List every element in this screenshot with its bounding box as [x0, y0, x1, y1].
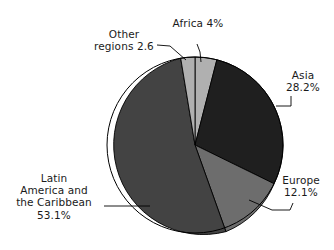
pie-label-asia: Asia 28.2%	[272, 69, 334, 93]
leader-line-asia	[276, 96, 291, 106]
pie-chart-figure: Africa 4% Other regions 2.6 Asia 28.2% E…	[0, 0, 334, 250]
pie-label-europe: Europe 12.1%	[268, 174, 334, 198]
pie-label-latin-america: Latin America and the Caribbean 53.1%	[4, 172, 104, 221]
pie-label-other-regions: Other regions 2.6	[78, 28, 170, 52]
